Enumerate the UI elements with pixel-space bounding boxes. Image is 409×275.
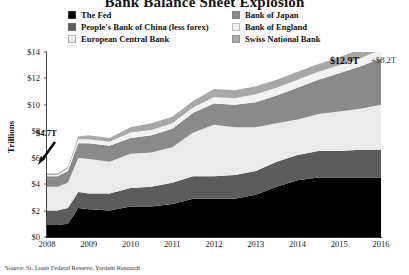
legend-item-label: Bank of Japan — [245, 9, 299, 21]
annotation-delta-value: +$8.2T — [371, 55, 396, 65]
x-axis-tick-label: 2012 — [206, 239, 223, 249]
chart-legend: The FedPeople's Bank of China (less fore… — [68, 9, 388, 45]
legend-item[interactable]: People's Bank of China (less forex) — [68, 21, 209, 33]
annotation-end-value: $12.9T — [330, 55, 359, 66]
x-axis-tick-label: 2013 — [247, 239, 264, 249]
x-axis-tick-labels: 200820092010201120122013201420152016 — [47, 239, 381, 255]
chart-container: Bank Balance Sheet Explosion The FedPeop… — [0, 0, 409, 275]
legend-item[interactable]: Bank of Japan — [232, 9, 320, 21]
legend-item[interactable]: Bank of England — [232, 21, 320, 33]
legend-swatch-icon — [68, 23, 76, 31]
y-axis-tick-label: $4 — [32, 179, 41, 189]
legend-item-label: People's Bank of China (less forex) — [81, 21, 209, 33]
legend-column-right: Bank of JapanBank of EnglandSwiss Nation… — [232, 9, 320, 45]
annotation-arrow-icon — [36, 140, 58, 166]
legend-item-label: European Central Bank — [81, 33, 169, 45]
x-axis-tick-label: 2014 — [289, 239, 306, 249]
stacked-area-svg — [47, 52, 381, 237]
x-axis-tick-label: 2015 — [331, 239, 348, 249]
legend-item[interactable]: The Fed — [68, 9, 209, 21]
x-axis-line — [46, 237, 382, 238]
annotation-start-value: $4.7T — [36, 128, 57, 138]
legend-item[interactable]: European Central Bank — [68, 33, 209, 45]
legend-swatch-icon — [232, 35, 240, 43]
legend-item-label: The Fed — [81, 9, 111, 21]
legend-item-label: Bank of England — [245, 21, 307, 33]
legend-swatch-icon — [68, 11, 76, 19]
source-note: Source: St. Louis Federal Reserve, Yarde… — [5, 264, 140, 271]
x-axis-tick-label: 2010 — [122, 239, 139, 249]
y-axis-tick-label: $14 — [27, 47, 40, 57]
x-axis-tick-label: 2011 — [164, 239, 181, 249]
y-axis-tick-label: $12 — [27, 73, 40, 83]
legend-swatch-icon — [232, 11, 240, 19]
legend-column-left: The FedPeople's Bank of China (less fore… — [68, 9, 209, 45]
y-axis-tick-label: $2 — [32, 206, 41, 216]
x-axis-tick-label: 2008 — [39, 239, 56, 249]
plot-area — [47, 52, 381, 237]
legend-swatch-icon — [232, 23, 240, 31]
legend-item-label: Swiss National Bank — [245, 33, 320, 45]
legend-item[interactable]: Swiss National Bank — [232, 33, 320, 45]
y-axis-tick-label: $10 — [27, 100, 40, 110]
x-axis-tick-label: 2009 — [80, 239, 97, 249]
x-axis-tick-label: 2016 — [373, 239, 390, 249]
legend-swatch-icon — [68, 35, 76, 43]
